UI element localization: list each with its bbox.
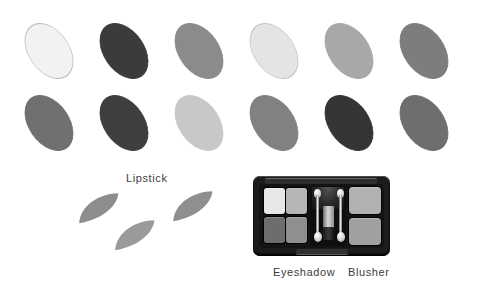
swatch-chart-page: Lipstick Eyeshadow Blusher bbox=[0, 0, 481, 298]
eyeshadow-pan bbox=[286, 188, 307, 214]
eyeshadow-pan bbox=[286, 217, 307, 243]
palette-latch bbox=[296, 249, 348, 255]
applicator-stick bbox=[316, 195, 319, 235]
blusher-pan bbox=[349, 218, 381, 245]
sponge-applicator bbox=[314, 189, 321, 241]
oval-swatch bbox=[239, 86, 308, 160]
lipstick-label: Lipstick bbox=[126, 172, 167, 184]
brush-ferrule bbox=[323, 227, 334, 240]
oval-swatch bbox=[314, 14, 383, 88]
oval-swatch bbox=[239, 14, 308, 88]
lipstick-swatch bbox=[71, 189, 128, 228]
oval-swatch bbox=[164, 14, 233, 88]
applicator-tip-icon bbox=[337, 232, 345, 242]
eyeshadow-pan bbox=[264, 217, 285, 243]
oval-swatch bbox=[14, 14, 83, 88]
lipstick-swatch bbox=[165, 187, 222, 226]
makeup-palette bbox=[253, 176, 390, 256]
oval-swatch bbox=[89, 86, 158, 160]
applicator-tip-icon bbox=[314, 232, 322, 242]
palette-inner-tray bbox=[259, 184, 384, 248]
oval-swatch bbox=[389, 14, 458, 88]
blusher-pan bbox=[349, 187, 381, 214]
oval-swatch bbox=[89, 14, 158, 88]
applicator-stick bbox=[339, 195, 342, 235]
eyeshadow-pan bbox=[264, 188, 285, 214]
oval-swatch bbox=[14, 86, 83, 160]
sponge-applicator bbox=[337, 189, 344, 241]
oval-swatch bbox=[314, 86, 383, 160]
lipstick-swatch bbox=[107, 216, 164, 255]
eyeshadow-label: Eyeshadow bbox=[273, 266, 335, 278]
oval-swatch bbox=[389, 86, 458, 160]
oval-swatch bbox=[164, 86, 233, 160]
blusher-label: Blusher bbox=[348, 266, 390, 278]
